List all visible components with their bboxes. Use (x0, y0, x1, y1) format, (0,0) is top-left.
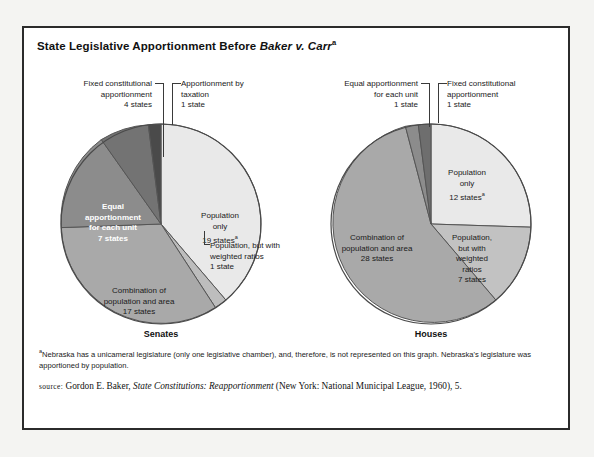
senates-footnote-marker: a (235, 234, 238, 240)
source-label: source: (39, 382, 63, 391)
houses-label-population-only: Population only 12 statesa (428, 168, 506, 214)
senates-callout-fixed-constitutional: Fixed constitutional apportionment 4 sta… (34, 79, 152, 121)
houses-label-weighted: Population, but with weighted ratios 7 s… (439, 233, 505, 296)
footnote: aNebraska has a unicameral legislature (… (39, 346, 555, 371)
pie-chart-senates: Population only 19 statesa Combination o… (24, 28, 298, 432)
houses-count-weighted: 7 states (439, 275, 505, 286)
senates-count-taxation: 1 state (181, 100, 291, 111)
senates-caption: Senates (101, 329, 221, 339)
houses-label-weighted-text: Population, but with weighted ratios (452, 233, 492, 274)
senates-label-equal-text: Equal apportionment for each unit (85, 202, 141, 232)
houses-label-combination-text: Combination of population and area (342, 233, 413, 253)
houses-callout-fixed-constitutional: Fixed constitutional apportionment 1 sta… (447, 79, 565, 121)
figure-container: State Legislative Apportionment Before B… (22, 26, 570, 430)
pie-chart-houses: Population only 12 statesa Population, b… (298, 28, 572, 432)
senates-label-combination-text: Combination of population and area (104, 286, 175, 306)
senates-callout-taxation-text: Apportionment by taxation (181, 79, 244, 99)
senates-count-combination: 17 states (82, 307, 196, 318)
houses-caption: Houses (371, 329, 491, 339)
houses-pie-graphic (328, 121, 534, 327)
senates-callout-taxation: Apportionment by taxation 1 state (181, 79, 291, 121)
houses-callout-fixed-text: Fixed constitutional apportionment (447, 79, 515, 99)
houses-count-combination: 28 states (320, 254, 434, 265)
houses-callout-equal-text: Equal apportionment for each unit (344, 79, 418, 99)
source-publication: (New York: National Municipal League, 19… (274, 381, 462, 391)
source-author: Gordon E. Baker, (63, 381, 133, 391)
source-work-title: State Constitutions: Reapportionment (133, 381, 273, 391)
senates-callout-fixed-text: Fixed constitutional apportionment (84, 79, 152, 99)
senates-callout-weighted-text: Population, but with weighted ratios (210, 241, 280, 261)
houses-label-combination: Combination of population and area 28 st… (320, 233, 434, 275)
houses-label-population-only-text: Population only (448, 168, 486, 188)
figure-page: State Legislative Apportionment Before B… (0, 0, 594, 457)
senates-label-population-only-text: Population only (201, 211, 239, 231)
houses-callout-equal-apportionment: Equal apportionment for each unit 1 stat… (298, 79, 418, 121)
senates-label-combination: Combination of population and area 17 st… (82, 286, 196, 328)
senates-count-fixed: 4 states (34, 100, 152, 111)
houses-count-population-only: 12 statesa (428, 189, 506, 203)
source-citation: source: Gordon E. Baker, State Constitut… (39, 380, 555, 393)
footnote-text: Nebraska has a unicameral legislature (o… (39, 350, 531, 370)
houses-count-equal: 1 state (298, 100, 418, 111)
houses-footnote-marker: a (482, 191, 485, 197)
houses-count-fixed: 1 state (447, 100, 565, 111)
senates-label-equal-apportionment: Equal apportionment for each unit 7 stat… (70, 202, 156, 255)
senates-count-equal: 7 states (70, 234, 156, 245)
